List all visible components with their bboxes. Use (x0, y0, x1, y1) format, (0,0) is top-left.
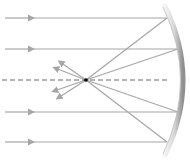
ray-diagram-canvas (0, 0, 190, 161)
focal-point (84, 78, 88, 82)
reflected-ray (86, 80, 167, 142)
reflected-ray-diverging (58, 80, 86, 98)
mirror-diagram (0, 0, 190, 161)
reflected-ray-diverging (54, 80, 86, 91)
reflected-ray (86, 49, 178, 80)
reflected-ray (86, 80, 178, 112)
